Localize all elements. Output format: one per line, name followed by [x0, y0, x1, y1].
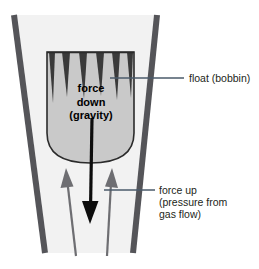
- rotameter-diagram-svg: [0, 0, 259, 269]
- label-force-up-line2: (pressure from: [159, 196, 227, 208]
- label-force-down-line2: down: [56, 96, 126, 110]
- diagram-canvas: [0, 0, 259, 269]
- label-force-down-line1: force: [56, 82, 126, 96]
- label-force-up: force up (pressure from gas flow): [159, 184, 227, 220]
- label-force-down-line3: (gravity): [56, 109, 126, 123]
- label-float-bobbin: float (bobbin): [189, 72, 250, 84]
- label-force-down: force down (gravity): [56, 82, 126, 123]
- label-float-bobbin-text: float (bobbin): [189, 72, 250, 84]
- label-force-up-line1: force up: [159, 184, 227, 196]
- label-force-up-line3: gas flow): [159, 208, 227, 220]
